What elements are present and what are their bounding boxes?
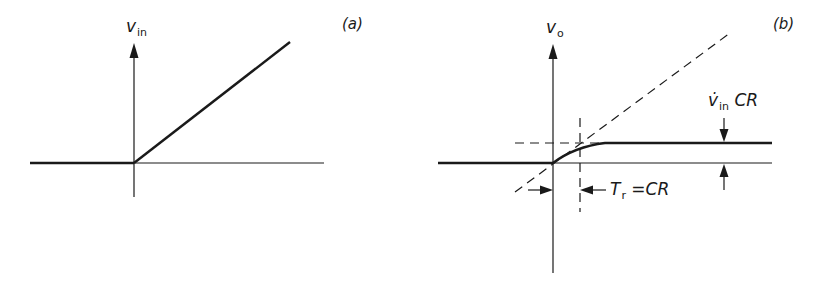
label-sub: in <box>137 26 147 39</box>
time-constant-label: Tr =CR <box>610 181 669 198</box>
diagram-canvas <box>0 0 813 281</box>
amplitude-label: v̇in CR <box>708 92 758 109</box>
panel-b-dashed-ramp <box>515 33 730 192</box>
panel-a <box>30 42 324 197</box>
panel-a-ramp <box>134 42 290 163</box>
panel-a-tag: (a) <box>342 17 363 32</box>
label-main: v <box>126 16 136 36</box>
label-sub: in <box>719 100 729 113</box>
label-sub: o <box>557 27 564 40</box>
label-main: v <box>546 17 556 37</box>
label-main: T <box>610 179 620 199</box>
panel-a-y-axis-label: vin <box>126 18 147 35</box>
panel-a-axis-arrow-icon <box>130 43 139 58</box>
label-main: v̇ <box>708 90 718 110</box>
label-tail: CR <box>729 90 758 110</box>
time-arrow-right-icon <box>540 186 553 195</box>
time-arrow-left-icon <box>580 186 593 195</box>
amplitude-arrow-up-icon <box>720 164 729 177</box>
panel-b-axis-arrow-icon <box>549 44 558 59</box>
label-tail: =CR <box>626 179 669 199</box>
panel-b-exponential-curve <box>553 143 772 163</box>
panel-b-y-axis-label: vo <box>546 19 564 36</box>
amplitude-arrow-down-icon <box>720 129 729 142</box>
panel-b <box>438 33 772 273</box>
label-sub: r <box>621 189 626 202</box>
panel-b-tag: (b) <box>773 17 794 32</box>
